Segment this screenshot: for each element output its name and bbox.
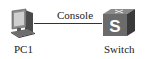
switch-label: Switch [104,43,135,55]
switch-node[interactable]: S [101,8,137,38]
pc-icon [9,8,37,39]
switch-icon: S [101,8,137,38]
console-link-line [34,23,102,24]
link-label-console: Console [57,9,93,21]
pc1-node[interactable] [9,8,37,39]
switch-glyph: S [109,17,120,36]
topology-diagram: Console PC1 [0,0,148,59]
pc1-label: PC1 [14,43,33,55]
